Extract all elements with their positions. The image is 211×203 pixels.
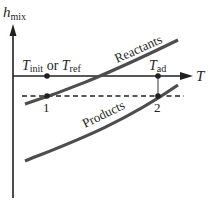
state-2-point: [155, 93, 161, 99]
state-2-label: 2: [154, 100, 161, 115]
initial-temperature-point: [44, 73, 50, 79]
x-axis-arrow-icon: [180, 72, 193, 80]
enthalpy-temperature-diagram: hmix T Reactants Products Tinit or Tref …: [0, 0, 211, 203]
y-axis-label: hmix: [3, 4, 26, 22]
adiabatic-temperature-label: Tad: [149, 58, 166, 74]
state-1-label: 1: [43, 100, 50, 115]
y-axis-arrow-icon: [10, 24, 17, 36]
initial-reference-temperature-label: Tinit or Tref: [22, 58, 81, 74]
adiabatic-temperature-point: [155, 73, 161, 79]
x-axis-label: T: [196, 68, 206, 84]
products-label: Products: [80, 97, 127, 130]
state-1-point: [44, 93, 50, 99]
